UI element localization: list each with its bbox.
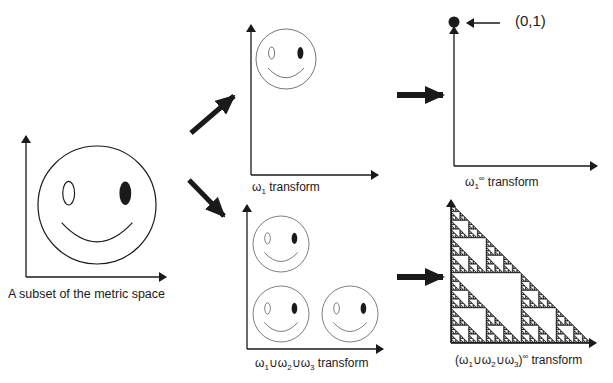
label-part: 1 <box>474 182 478 191</box>
smiley-face-icon <box>253 216 309 272</box>
label-part: ∪ω <box>292 356 310 370</box>
smiley-face-icon <box>38 146 156 264</box>
source-label: A subset of the metric space <box>8 287 165 301</box>
fixed-point-dot <box>449 17 460 28</box>
union-panel <box>247 205 383 349</box>
arrow-up-right-icon <box>191 96 234 133</box>
arrow-down-right-icon <box>189 180 224 216</box>
smiley-face-icon <box>256 29 316 89</box>
point-coordinate-label: (0,1) <box>515 12 546 29</box>
union-inf-label: (ω1∪ω2∪ω3)∞ transform <box>455 352 582 369</box>
smiley-face-icon <box>253 286 309 342</box>
union-inf-panel <box>451 200 596 343</box>
label-part: ω <box>252 180 261 194</box>
label-part: transform <box>314 356 368 370</box>
omega1-panel <box>251 25 378 175</box>
label-part: transform <box>266 180 320 194</box>
omega1-label: ω1 transform <box>252 180 320 196</box>
label-part: (ω <box>455 353 468 367</box>
label-part: transform <box>485 175 539 189</box>
source-panel <box>26 136 166 277</box>
smiley-face-icon <box>322 286 378 342</box>
sierpinski-triangle <box>451 203 591 343</box>
label-part: ω <box>255 356 264 370</box>
union-label: ω1∪ω2∪ω3 transform <box>255 356 369 372</box>
label-part: transform <box>528 353 582 367</box>
label-part: ∪ω <box>496 353 514 367</box>
label-part: ∪ω <box>473 353 491 367</box>
omega1-inf-panel <box>449 17 598 167</box>
label-part: ∪ω <box>269 356 287 370</box>
label-part: ω <box>465 175 474 189</box>
omega1-inf-label: ω1∞ transform <box>465 174 539 191</box>
